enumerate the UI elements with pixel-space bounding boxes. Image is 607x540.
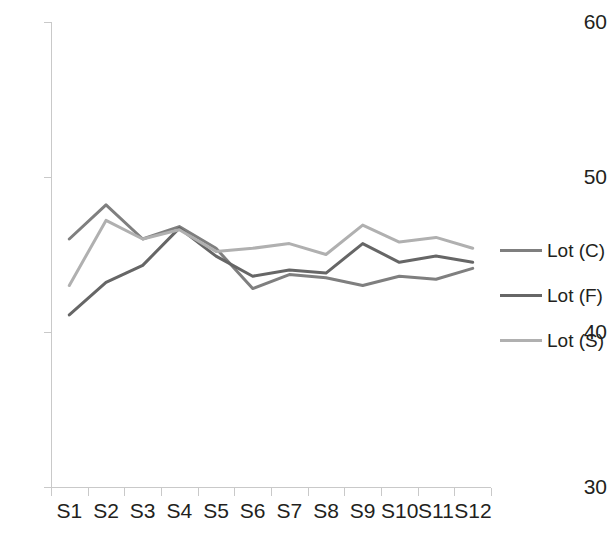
legend-swatch-lot-f bbox=[500, 294, 542, 297]
legend-label-lot-s: Lot (S) bbox=[547, 331, 604, 350]
chart-legend: Lot (C) Lot (F) Lot (S) bbox=[500, 228, 607, 363]
legend-item-lot-f[interactable]: Lot (F) bbox=[500, 273, 607, 318]
line-chart: 60504030 S1S2S3S4S5S6S7S8S9S10S11S12 Lot… bbox=[0, 0, 607, 540]
legend-item-lot-c[interactable]: Lot (C) bbox=[500, 228, 607, 273]
legend-label-lot-c: Lot (C) bbox=[547, 241, 605, 260]
legend-item-lot-s[interactable]: Lot (S) bbox=[500, 318, 607, 363]
legend-swatch-lot-s bbox=[500, 339, 542, 342]
series-line-lot-s bbox=[69, 220, 472, 285]
legend-label-lot-f: Lot (F) bbox=[547, 286, 603, 305]
legend-swatch-lot-c bbox=[500, 249, 542, 252]
